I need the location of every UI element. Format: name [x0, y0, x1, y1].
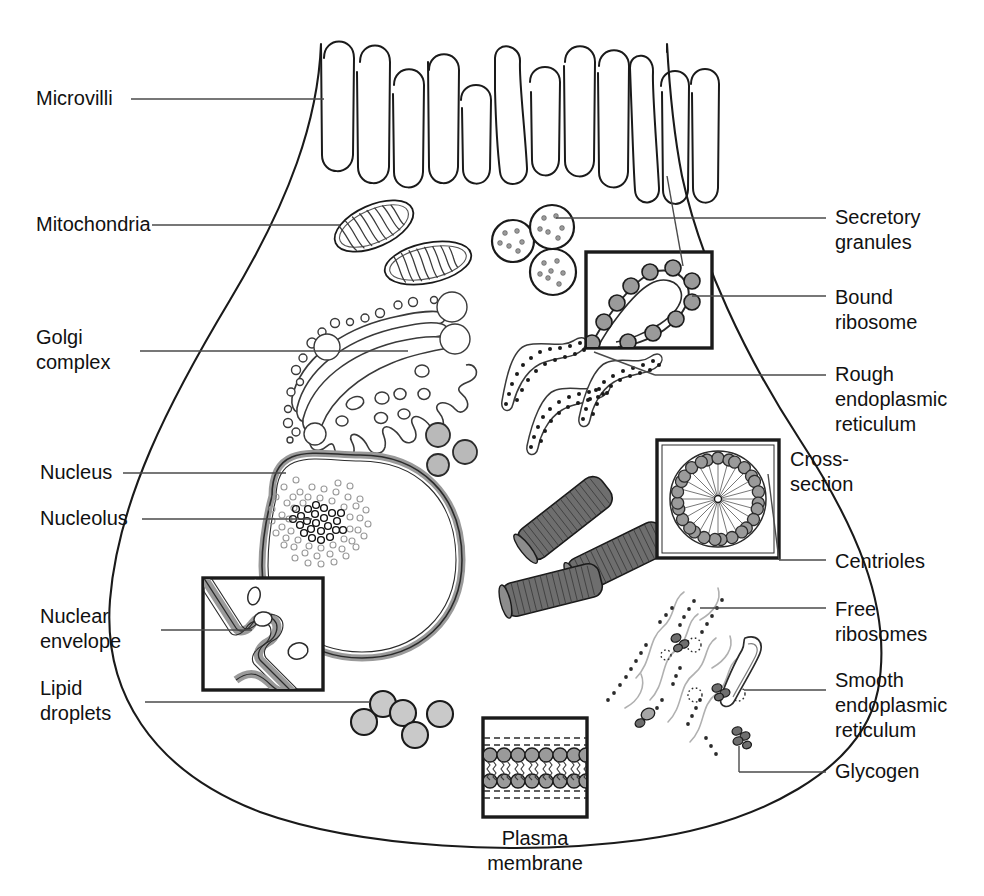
label-bound-ribosome: Boundribosome [835, 285, 917, 335]
label-lipid-droplets: Lipiddroplets [40, 676, 111, 726]
label-glycogen: Glycogen [835, 759, 920, 784]
label-free-ribosomes: Freeribosomes [835, 597, 927, 647]
label-mitochondria: Mitochondria [36, 212, 151, 237]
label-centrioles: Centrioles [835, 549, 925, 574]
label-secretory-granules: Secretorygranules [835, 205, 921, 255]
label-golgi-complex: Golgicomplex [36, 325, 110, 375]
bound-ribosome-inset [584, 252, 712, 351]
label-smooth-er: Smoothendoplasmicreticulum [835, 668, 947, 743]
cross-section-inset [657, 440, 779, 558]
label-nuclear-envelope: Nuclearenvelope [40, 604, 121, 654]
cell-diagram-figure: Microvilli Mitochondria Golgicomplex Nuc… [0, 0, 984, 896]
label-nucleus: Nucleus [40, 460, 112, 485]
label-nucleolus: Nucleolus [40, 506, 128, 531]
label-rough-er: Roughendoplasmicreticulum [835, 362, 947, 437]
label-microvilli: Microvilli [36, 86, 113, 111]
label-cross-section: Cross-section [790, 447, 853, 497]
plasma-membrane-inset [483, 718, 593, 817]
label-plasma-membrane: Plasmamembrane [451, 826, 619, 876]
